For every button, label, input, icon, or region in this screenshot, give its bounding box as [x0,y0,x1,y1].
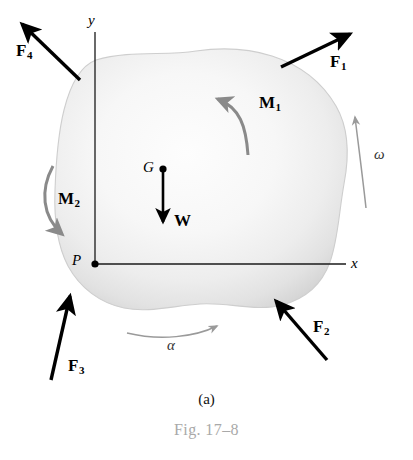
rigid-body-shape [55,49,348,310]
angular-velocity-omega-arc [355,117,366,208]
x-axis-label: x [351,256,358,271]
moment-label-M1: M1 [259,94,281,111]
figure-17-8: y x P G W F1 F2 F3 F4 M1 M2 ω α (a) Fig.… [0,0,413,460]
moment-label-M1-text: M [259,93,275,112]
moment-label-M1-sub: 1 [276,101,282,113]
force-label-F3: F3 [68,357,84,374]
weight-label-W: W [174,212,191,229]
figure-caption: Fig. 17–8 [0,421,413,439]
force-label-F2-text: F [313,317,323,336]
force-label-F2-sub: 2 [324,325,330,337]
subfigure-caption: (a) [0,391,413,408]
force-label-F4: F4 [16,42,32,59]
origin-point-P [91,260,98,267]
moment-label-M2-text: M [58,189,74,208]
force-label-F1-text: F [330,52,340,71]
force-label-F1-sub: 1 [341,60,347,72]
weight-label-text: W [174,211,191,230]
force-label-F4-sub: 4 [27,49,33,61]
force-label-F2: F2 [313,318,329,335]
moment-label-M2: M2 [58,190,80,207]
force-label-F3-sub: 3 [79,364,85,376]
moment-label-M2-sub: 2 [75,197,81,209]
force-label-F3-text: F [68,356,78,375]
angular-acceleration-label-alpha: α [167,338,175,353]
center-of-gravity-label-G: G [143,160,154,175]
angular-acceleration-alpha-arc [127,326,217,337]
y-axis-label: y [88,13,95,28]
force-label-F4-text: F [16,41,26,60]
origin-label-P: P [72,253,81,268]
force-label-F1: F1 [330,53,346,70]
angular-velocity-label-omega: ω [374,147,385,162]
